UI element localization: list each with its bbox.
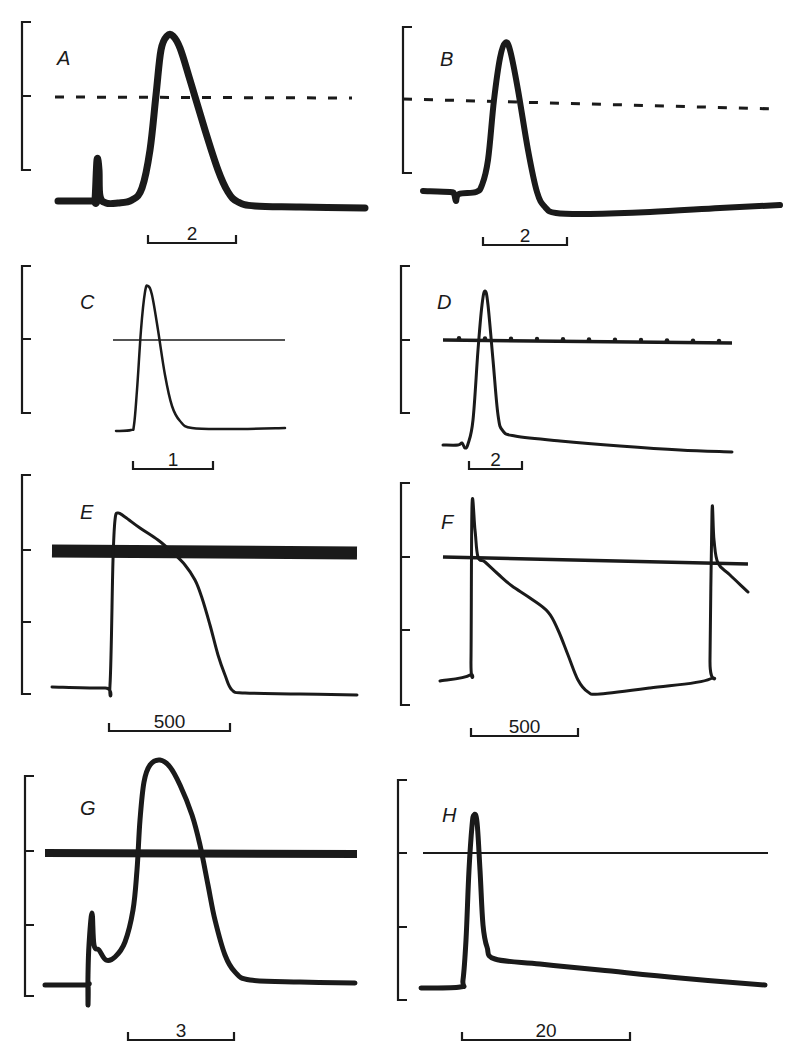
time-marker-dot — [587, 337, 591, 341]
voltage-calibration-bracket — [22, 266, 31, 413]
action-potential-trace — [443, 291, 732, 452]
action-potential-trace — [116, 286, 285, 431]
time-marker-dot — [717, 339, 721, 343]
time-marker-dot — [535, 337, 539, 341]
panel-C: C1 — [22, 266, 285, 470]
time-marker-dot — [691, 338, 695, 342]
panel-F: F500 — [401, 483, 748, 737]
time-scale-label: 20 — [535, 1020, 556, 1041]
panel-label: C — [80, 291, 95, 313]
panel-A: A2 — [22, 22, 365, 244]
voltage-calibration-bracket — [25, 776, 34, 996]
reference-line — [443, 557, 748, 564]
panel-label: B — [440, 48, 453, 70]
time-scale-label: 500 — [509, 716, 541, 737]
panel-G: G3 — [25, 760, 357, 1041]
panel-label: D — [437, 291, 451, 313]
panel-B: B2 — [403, 27, 780, 246]
time-marker-dot — [613, 338, 617, 342]
voltage-calibration-bracket — [401, 266, 410, 413]
time-marker-dot — [483, 336, 487, 340]
time-scale-label: 1 — [168, 449, 179, 470]
action-potential-trace — [423, 42, 780, 214]
time-scale-label: 3 — [176, 1020, 187, 1041]
time-marker-dot — [457, 336, 461, 340]
panel-label: G — [80, 797, 96, 819]
time-scale-label: 2 — [490, 449, 501, 470]
panel-E: E500 — [22, 475, 357, 732]
voltage-calibration-bracket — [22, 475, 31, 694]
voltage-calibration-bracket — [401, 483, 410, 705]
voltage-calibration-bracket — [398, 780, 407, 1000]
time-marker-dot — [639, 338, 643, 342]
time-scale-label: 2 — [520, 225, 531, 246]
figure: A2B2C1D2E500F500G3H20 — [0, 0, 785, 1048]
panel-label: A — [56, 47, 70, 69]
action-potential-trace — [52, 513, 357, 696]
reference-line — [52, 551, 357, 553]
panel-label: E — [80, 501, 94, 523]
action-potential-trace — [421, 814, 765, 988]
panel-label: H — [442, 804, 457, 826]
panel-D: D2 — [401, 266, 732, 470]
panel-label: F — [441, 511, 455, 533]
time-scale-label: 2 — [187, 223, 198, 244]
time-scale-label: 500 — [154, 711, 186, 732]
reference-line — [403, 99, 776, 109]
time-marker-dot — [665, 338, 669, 342]
action-potential-trace — [440, 499, 748, 695]
action-potential-trace — [58, 34, 365, 208]
time-marker-dot — [561, 337, 565, 341]
panel-H: H20 — [398, 780, 768, 1041]
reference-line — [55, 97, 352, 98]
voltage-calibration-bracket — [22, 22, 31, 170]
time-marker-dot — [509, 337, 513, 341]
